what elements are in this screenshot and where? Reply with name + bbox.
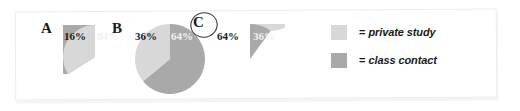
legend-label-class-contact: class contact xyxy=(368,54,436,66)
pie-b-label-private-study: 36% xyxy=(135,31,157,42)
legend-swatch-private-study xyxy=(331,25,347,40)
pie-c-label-private-study: 64% xyxy=(217,31,239,42)
pie-chart-figure: A 16% 84% B 36% 64% C 64% xyxy=(0,0,520,111)
legend-swatch-class-contact xyxy=(331,53,347,68)
pie-chart-c: C 64% 36% xyxy=(215,24,285,94)
legend-equals-private-study: = xyxy=(359,26,365,38)
legend-item-private-study: = private study xyxy=(331,22,437,42)
pie-b-letter: B xyxy=(112,21,122,36)
legend-item-class-contact: = class contact xyxy=(331,50,437,70)
pie-chart-b: B 36% 64% xyxy=(135,24,205,94)
legend-equals-class-contact: = xyxy=(359,54,365,66)
figure-content: A 16% 84% B 36% 64% C 64% xyxy=(0,0,520,111)
legend: = private study = class contact xyxy=(331,22,437,78)
pie-a-letter: A xyxy=(41,21,52,36)
pie-c-letter: C xyxy=(193,15,204,30)
pie-b-label-class-contact: 64% xyxy=(171,31,193,42)
pie-c-label-class-contact: 36% xyxy=(253,31,275,42)
pie-a-label-private-study: 16% xyxy=(64,31,86,42)
legend-label-private-study: private study xyxy=(368,26,435,38)
